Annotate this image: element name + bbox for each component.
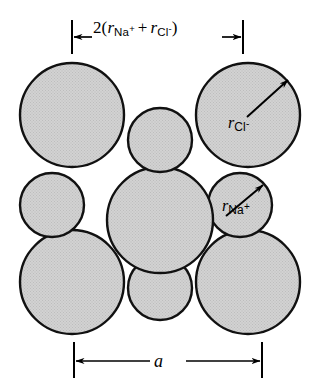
sphere-cl-bottom-right bbox=[196, 230, 300, 334]
sphere-na-middle-left bbox=[20, 173, 84, 237]
chloride-radius-sup: - bbox=[246, 118, 249, 129]
nacl-unit-cell-diagram bbox=[0, 0, 316, 390]
sodium-radius-sup: + bbox=[244, 201, 250, 212]
sodium-radius-sub: Na bbox=[228, 203, 244, 217]
top-dimension-label: 2(rNa++rCl-) bbox=[93, 19, 178, 38]
top-dimension-term1-sup: + bbox=[129, 23, 135, 34]
sodium-radius-label: rNa+ bbox=[222, 198, 250, 216]
sphere-cl-bottom-left bbox=[20, 230, 124, 334]
top-dimension-operator: + bbox=[135, 18, 151, 37]
chloride-radius-sub: Cl bbox=[234, 120, 246, 134]
chloride-radius-label: rCl- bbox=[228, 115, 249, 133]
top-dimension-term2-sub: Cl bbox=[157, 26, 168, 38]
sphere-cl-middle-center bbox=[107, 167, 213, 273]
top-dimension-prefix: 2( bbox=[93, 18, 107, 37]
top-dimension-term1-sub: Na bbox=[114, 26, 129, 38]
top-dimension-suffix: ) bbox=[172, 18, 178, 37]
sphere-na-top-center bbox=[128, 108, 192, 172]
lattice-parameter-label: a bbox=[154, 352, 163, 370]
sphere-cl-top-left bbox=[20, 63, 124, 167]
